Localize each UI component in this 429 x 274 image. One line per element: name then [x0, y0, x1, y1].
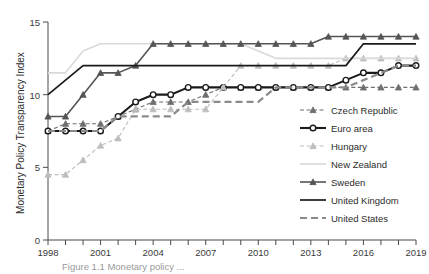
series-marker: [97, 121, 103, 127]
series-marker: [361, 70, 367, 76]
x-tick-label: 1998: [37, 247, 58, 258]
figure-caption: Figure 1.1 Monetary policy ...: [62, 261, 185, 272]
y-tick-label: 15: [29, 17, 40, 28]
series-marker: [413, 84, 419, 90]
legend-item-label: Czech Republic: [331, 105, 398, 116]
legend-item-label: Euro area: [331, 123, 373, 134]
series-marker: [133, 99, 139, 105]
legend-item-label: United Kingdom: [331, 195, 399, 206]
series-marker: [97, 142, 103, 148]
series-marker: [115, 135, 121, 141]
series-marker: [238, 85, 244, 91]
chart-legend: Czech RepublicEuro areaHungaryNew Zealan…: [294, 100, 426, 228]
x-tick-label: 2019: [405, 247, 426, 258]
x-axis-ticks: 19982001200420072010201320162019: [37, 240, 426, 258]
legend-item-label: New Zealand: [331, 159, 387, 170]
legend-item-label: Hungary: [331, 141, 367, 152]
y-tick-label: 10: [29, 90, 40, 101]
y-axis-title: Monetary Policy Transparency Index: [15, 52, 26, 214]
series-marker: [255, 85, 261, 91]
series-marker: [150, 92, 156, 98]
x-tick-label: 2016: [353, 247, 374, 258]
legend-swatch-marker: [310, 125, 316, 131]
figure-container: Monetary Policy Transparency Index 05101…: [0, 0, 429, 274]
series-marker: [203, 92, 209, 98]
x-tick-label: 2007: [195, 247, 216, 258]
x-tick-label: 2010: [248, 247, 269, 258]
legend-item-label: United States: [331, 213, 388, 224]
monetary-policy-transparency-chart: Monetary Policy Transparency Index 05101…: [0, 0, 429, 274]
series-marker: [168, 92, 174, 98]
series-marker: [185, 85, 191, 91]
series-marker: [203, 85, 209, 91]
y-tick-label: 0: [35, 235, 40, 246]
series-marker: [343, 77, 349, 83]
x-tick-label: 2001: [90, 247, 111, 258]
x-tick-label: 2013: [300, 247, 321, 258]
x-tick-label: 2004: [143, 247, 164, 258]
series-marker: [80, 157, 86, 163]
legend-item-label: Sweden: [331, 177, 365, 188]
y-tick-label: 5: [35, 162, 40, 173]
